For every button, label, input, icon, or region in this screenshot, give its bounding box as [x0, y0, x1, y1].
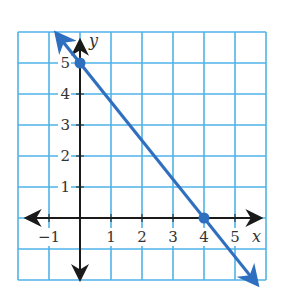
- y-tick-label: 2: [60, 147, 70, 165]
- line-series: [57, 34, 257, 284]
- y-tick-label: 1: [60, 178, 70, 196]
- x-tick-label: 3: [168, 228, 178, 246]
- data-point: [199, 213, 210, 224]
- y-tick-label: 4: [60, 85, 70, 103]
- x-tick-label: 4: [199, 228, 209, 246]
- x-tick-label: −1: [38, 228, 60, 246]
- x-axis-label: x: [252, 227, 261, 246]
- y-tick-label: 5: [60, 54, 70, 72]
- y-tick-label: 3: [60, 116, 70, 134]
- x-tick-label: 5: [230, 228, 240, 246]
- coordinate-plane-chart: −11234512345 x y: [0, 0, 282, 302]
- data-point: [75, 58, 86, 69]
- y-axis-label: y: [88, 31, 99, 50]
- x-tick-label: 2: [137, 228, 147, 246]
- x-tick-label: 1: [106, 228, 116, 246]
- data-line: [57, 34, 257, 284]
